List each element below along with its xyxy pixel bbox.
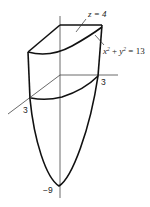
lower-arc	[31, 76, 98, 99]
top-back-left-edge	[28, 25, 60, 52]
y-axis-tick-label: 3	[101, 77, 106, 87]
paraboloid-curve	[30, 76, 98, 186]
z-vertex-label: −9	[43, 185, 53, 195]
x-axis-tick-label: 3	[23, 105, 28, 115]
cylinder-label: x2 + y2 = 13	[102, 46, 145, 57]
cylinder-leader	[95, 35, 104, 45]
x-axis	[8, 75, 60, 114]
cyl-eq: = 13	[126, 46, 145, 56]
right-wall	[98, 25, 102, 76]
solid-diagram: z = 4 x2 + y2 = 13 3 3 −9	[0, 0, 150, 207]
left-wall	[28, 52, 30, 99]
plane-label: z = 4	[87, 9, 107, 19]
solid-outline	[28, 25, 102, 186]
top-front-arc	[28, 27, 102, 54]
cyl-plus: +	[110, 46, 120, 56]
